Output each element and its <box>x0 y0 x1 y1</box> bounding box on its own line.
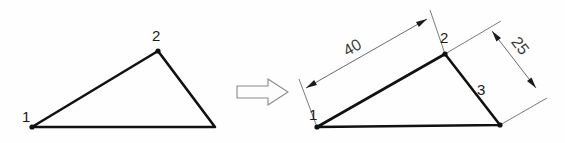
extension-line-25-end <box>500 98 547 125</box>
left-vertex-2-dot <box>155 48 160 53</box>
dimension-40-arrowhead-start <box>306 80 317 88</box>
right-vertex-3-dot <box>497 122 502 127</box>
figure-canvas: 1 2 1 <box>0 0 565 143</box>
dimension-25-arrowhead-start <box>492 31 501 41</box>
right-vertex-2-dot <box>442 51 447 56</box>
dimension-line-40 <box>306 19 427 88</box>
dimension-40-arrowhead-end <box>416 19 427 27</box>
technical-drawing-figure: 1 2 1 <box>0 0 565 143</box>
right-triangle-group: 1 2 3 40 25 <box>299 10 547 130</box>
transition-arrow-group <box>237 79 288 105</box>
dimension-value-40: 40 <box>340 35 364 59</box>
extension-line-25-start <box>445 21 501 54</box>
left-triangle-outline <box>32 51 215 127</box>
left-vertex-label-1: 1 <box>22 108 30 125</box>
right-triangle-outline <box>317 54 500 127</box>
left-vertex-1-dot <box>29 124 34 129</box>
left-vertex-label-2: 2 <box>152 27 160 44</box>
dimension-25-arrowhead-end <box>527 78 536 88</box>
left-triangle-group: 1 2 <box>22 27 215 130</box>
right-vertex-label-2: 2 <box>440 29 448 46</box>
right-arrow-icon <box>237 79 288 105</box>
right-vertex-label-3: 3 <box>477 81 485 98</box>
right-vertex-label-1: 1 <box>309 106 317 123</box>
right-vertex-1-dot <box>314 124 319 129</box>
dimension-value-25: 25 <box>508 33 532 58</box>
